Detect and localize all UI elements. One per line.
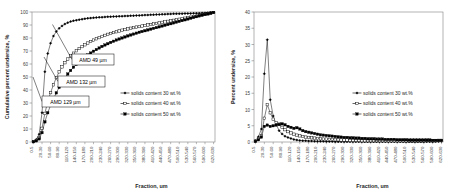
y-tick-label: 10: [23, 127, 29, 132]
data-point: [61, 66, 64, 69]
data-point: [310, 137, 313, 140]
data-point: [181, 19, 184, 22]
y-tick-label: 70: [23, 49, 29, 54]
y-tick-label: 5: [247, 124, 250, 129]
y-axis-title: Cumulative percent undersize, %: [4, 35, 10, 120]
data-point: [207, 13, 210, 16]
data-point: [340, 136, 343, 139]
data-point: [352, 139, 355, 142]
legend-label: solids content 50 wt.%: [363, 111, 413, 117]
data-point: [325, 134, 328, 137]
x-axis: 0-520-3050-6080-90110-120140-150170-1802…: [251, 142, 442, 163]
data-point: [428, 139, 431, 142]
data-point: [46, 112, 49, 115]
data-point: [284, 128, 287, 131]
legend-label: solids content 40 wt.%: [363, 100, 413, 106]
data-point: [417, 139, 420, 142]
data-point: [281, 123, 284, 126]
data-point: [107, 33, 110, 36]
y-tick-label: 100: [20, 10, 28, 15]
data-point: [149, 28, 152, 31]
data-point: [66, 58, 69, 61]
data-point: [135, 26, 138, 29]
x-tick-label: 440-450: [384, 146, 389, 163]
data-point: [44, 112, 47, 115]
chart-svg: 0102030405060708090100Cumulative percent…: [0, 0, 227, 194]
data-point: [411, 139, 414, 142]
data-point: [387, 138, 390, 141]
data-point: [161, 25, 164, 28]
data-point: [35, 140, 38, 143]
data-point: [269, 125, 272, 128]
data-point: [78, 47, 81, 50]
legend-3-marker: [124, 113, 127, 116]
data-point: [189, 17, 192, 20]
data-point: [132, 26, 135, 29]
data-point: [369, 138, 372, 141]
data-point: [87, 42, 90, 45]
data-point: [155, 22, 158, 25]
data-point: [313, 132, 316, 135]
data-point: [375, 138, 378, 141]
data-point: [198, 15, 201, 18]
legend-3-marker: [356, 113, 359, 116]
data-point: [393, 138, 396, 141]
data-point: [155, 26, 158, 29]
x-tick-label: 290-300: [115, 146, 120, 163]
x-axis-title: Fraction, um: [135, 183, 168, 189]
x-tick-label: 0-5: [251, 146, 256, 153]
data-point: [84, 44, 87, 47]
x-tick-label: 470-480: [167, 146, 172, 163]
x-tick-label: 410-420: [376, 146, 381, 163]
data-point: [132, 33, 135, 36]
data-point: [337, 136, 340, 139]
data-point: [396, 138, 399, 141]
y-axis: 0102030405060708090100: [20, 10, 32, 145]
data-point: [290, 126, 293, 129]
y-tick-label: 25: [245, 59, 251, 64]
y-axis: 0510152025303540: [245, 10, 254, 145]
y-tick-label: 20: [23, 114, 29, 119]
data-point: [322, 134, 325, 137]
x-tick-label: 290-300: [340, 146, 345, 163]
x-tick-label: 260-270: [331, 146, 336, 163]
data-point: [340, 139, 343, 142]
data-point: [390, 138, 393, 141]
data-point: [272, 125, 275, 128]
data-point: [343, 139, 346, 142]
data-point: [266, 124, 269, 127]
data-point: [112, 31, 115, 34]
legend-2-marker: [124, 102, 127, 105]
data-point: [287, 125, 290, 128]
data-point: [431, 139, 434, 142]
x-tick-label: 530-540: [411, 146, 416, 163]
data-point: [260, 136, 263, 139]
y-tick-label: 35: [245, 26, 251, 31]
dual-chart-figure: 0102030405060708090100Cumulative percent…: [0, 0, 455, 194]
data-point: [331, 135, 334, 138]
x-tick-label: 200-210: [89, 146, 94, 163]
x-tick-label: 20-30: [260, 146, 265, 158]
data-point: [89, 40, 92, 43]
data-point: [346, 139, 349, 142]
data-point: [101, 35, 104, 38]
data-point: [434, 139, 437, 142]
data-point: [195, 15, 198, 18]
data-point: [121, 29, 124, 32]
data-point: [254, 140, 257, 143]
data-point: [158, 22, 161, 25]
x-tick-label: 80-90: [55, 146, 60, 158]
data-point: [135, 32, 138, 35]
data-point: [147, 24, 150, 27]
x-tick-label: 0-5: [29, 146, 34, 153]
data-point: [149, 23, 152, 26]
data-point: [129, 34, 132, 37]
data-point: [95, 48, 98, 51]
data-point: [164, 24, 167, 27]
data-point: [384, 138, 387, 141]
data-point: [278, 123, 281, 126]
x-tick-label: 380-390: [367, 146, 372, 163]
data-point: [420, 139, 423, 142]
data-point: [331, 138, 334, 141]
data-point: [169, 22, 172, 25]
